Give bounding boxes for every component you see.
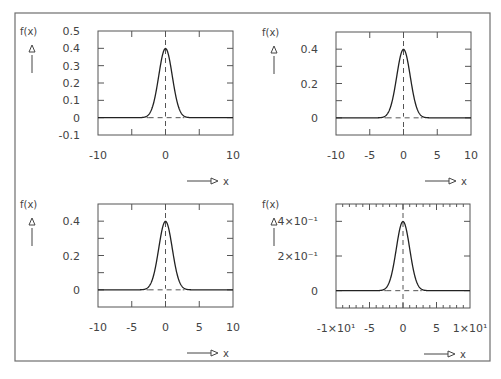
x-tick-label: 10 — [226, 149, 240, 162]
plot-panel-2: 00.20.4-10-50510f(x)x — [262, 27, 478, 187]
x-tick-label: 10 — [464, 149, 478, 162]
axes-box — [336, 204, 470, 308]
x-tick-label: 0 — [162, 149, 169, 162]
x-tick-label: -10 — [89, 321, 107, 334]
y-axis-label: f(x) — [20, 26, 37, 37]
y-tick-label: 0.5 — [63, 25, 81, 38]
y-tick-label: 0.2 — [301, 78, 319, 91]
x-axis-label: x — [460, 349, 466, 360]
y-axis-arrow-icon — [29, 45, 35, 52]
x-tick-label: 5 — [433, 322, 440, 335]
y-tick-label: 0.3 — [63, 60, 81, 73]
y-tick-label: 0.1 — [63, 94, 81, 107]
x-tick-label: -10 — [327, 149, 345, 162]
x-tick-label: 0 — [400, 149, 407, 162]
y-axis-label: f(x) — [262, 199, 279, 210]
y-axis-label: f(x) — [262, 27, 279, 38]
y-tick-label: 0.4 — [63, 215, 81, 228]
panels: -0.100.10.20.30.40.5-10010f(x)x00.20.4-1… — [20, 25, 487, 360]
x-tick-label: -5 — [126, 321, 137, 334]
x-axis-arrow-icon — [211, 178, 218, 184]
x-tick-label: 1×10¹ — [453, 322, 488, 335]
plot-panel-4: 02×10⁻¹4×10⁻¹-1×10¹-5051×10¹f(x)x — [262, 199, 487, 360]
x-tick-label: -5 — [364, 149, 375, 162]
x-axis-label: x — [461, 176, 467, 187]
y-tick-label: 0.4 — [63, 42, 81, 55]
x-tick-label: 10 — [226, 321, 240, 334]
x-axis-label: x — [223, 176, 229, 187]
x-axis-label: x — [223, 348, 229, 359]
y-tick-label: 0 — [73, 284, 80, 297]
y-tick-label: 4×10⁻¹ — [278, 215, 318, 228]
y-tick-label: -0.1 — [59, 129, 80, 142]
x-tick-label: 5 — [196, 321, 203, 334]
plot-panel-3: 00.20.4-10-50510f(x)x — [20, 199, 240, 359]
y-tick-label: 0.2 — [63, 250, 81, 263]
figure-frame — [15, 13, 490, 361]
x-axis-arrow-icon — [449, 178, 456, 184]
x-tick-label: -10 — [89, 149, 107, 162]
x-tick-label: -5 — [364, 322, 375, 335]
axes-box — [336, 32, 471, 135]
x-tick-label: 5 — [434, 149, 441, 162]
y-axis-arrow-icon — [271, 46, 277, 53]
y-tick-label: 0.4 — [301, 43, 319, 56]
x-axis-arrow-icon — [211, 350, 218, 356]
figure: -0.100.10.20.30.40.5-10010f(x)x00.20.4-1… — [0, 0, 501, 379]
y-axis-label: f(x) — [20, 199, 37, 210]
x-tick-label: -1×10¹ — [317, 322, 356, 335]
axes-box — [98, 204, 233, 307]
y-tick-label: 0.2 — [63, 77, 81, 90]
y-axis-arrow-icon — [271, 218, 277, 225]
axes-box — [98, 31, 233, 135]
y-tick-label: 0 — [311, 112, 318, 125]
y-tick-label: 0 — [311, 285, 318, 298]
y-tick-label: 2×10⁻¹ — [278, 250, 318, 263]
y-tick-label: 0 — [73, 112, 80, 125]
x-tick-label: 0 — [400, 322, 407, 335]
y-axis-arrow-icon — [29, 218, 35, 225]
figure-canvas: -0.100.10.20.30.40.5-10010f(x)x00.20.4-1… — [0, 0, 501, 379]
x-axis-arrow-icon — [448, 351, 455, 357]
x-tick-label: 0 — [162, 321, 169, 334]
plot-panel-1: -0.100.10.20.30.40.5-10010f(x)x — [20, 25, 240, 187]
